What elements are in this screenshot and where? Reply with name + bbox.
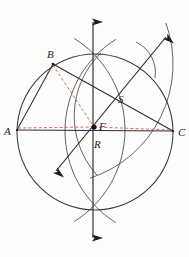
arc-from-b-lower <box>90 23 173 178</box>
dashed-construction-group <box>18 65 172 130</box>
label-s: S <box>118 93 124 105</box>
segment-AB <box>17 64 53 130</box>
label-c: C <box>178 126 186 138</box>
vertex-label-group: A B C F R S <box>3 48 186 150</box>
point-dot-a <box>16 129 18 131</box>
label-b: B <box>47 48 54 60</box>
construction-arc-group <box>65 23 173 223</box>
label-a: A <box>3 125 11 137</box>
segment-AC <box>17 130 173 131</box>
circumscribed-circle <box>17 54 173 210</box>
point-group <box>16 63 174 132</box>
point-dot-b <box>52 63 55 66</box>
point-dot-c <box>172 130 174 132</box>
construction-canvas: A B C F R S <box>0 0 189 257</box>
label-r: R <box>93 138 101 150</box>
dashed-A-to-F <box>18 127 94 128</box>
arc-from-c-short <box>74 53 101 175</box>
circumcircle-group <box>17 54 173 210</box>
triangle-group <box>17 64 173 131</box>
geometry-figure: A B C F R S <box>0 0 189 257</box>
label-f: F <box>98 120 106 132</box>
point-dot-f <box>91 124 96 129</box>
dashed-B-to-F <box>53 65 94 127</box>
